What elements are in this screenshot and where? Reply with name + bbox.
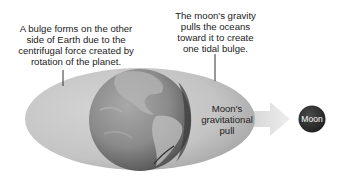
- gravitational-pull-label: Moon's gravitational pull: [197, 103, 257, 136]
- moon-label: Moon: [297, 113, 327, 125]
- far-side-bulge-label: A bulge forms on the other side of Earth…: [16, 23, 136, 67]
- tidal-diagram: A bulge forms on the other side of Earth…: [0, 0, 346, 177]
- near-side-bulge-label: The moon's gravity pulls the oceans towa…: [168, 10, 263, 54]
- earth-globe: [89, 69, 191, 171]
